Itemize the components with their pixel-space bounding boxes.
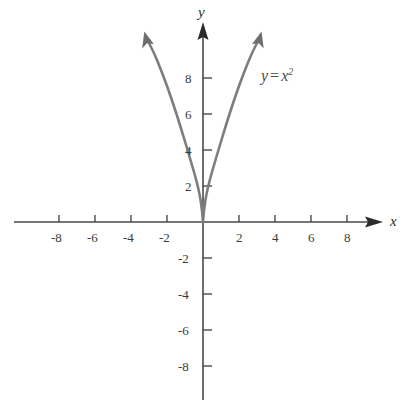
graph-figure: -8 -6 -4 -2 2 4 6 8 8 6 4 2 -2 -4 -6 -8 …	[0, 0, 411, 414]
x-tick-label-2: 2	[236, 231, 243, 244]
x-tick-label-4: 4	[272, 231, 279, 244]
x-tick-label--8: -8	[51, 231, 62, 244]
y-axis-name-label: y	[198, 5, 205, 20]
y-tick-label--8: -8	[178, 360, 189, 373]
x-tick-label-6: 6	[308, 231, 315, 244]
parabola-left-arrowhead	[142, 32, 154, 49]
y-tick-label-8: 8	[185, 72, 192, 85]
x-tick-label--4: -4	[123, 231, 134, 244]
y-tick-label--6: -6	[178, 324, 189, 337]
parabola-right-arrowhead	[252, 32, 264, 49]
y-tick-label--4: -4	[178, 288, 189, 301]
x-tick-label--2: -2	[159, 231, 170, 244]
y-tick-label--2: -2	[178, 252, 189, 265]
y-tick-label-2: 2	[185, 180, 192, 193]
x-tick-label--6: -6	[87, 231, 98, 244]
x-tick-label-8: 8	[344, 231, 351, 244]
x-axis-name-label: x	[390, 214, 397, 229]
y-tick-label-6: 6	[185, 108, 192, 121]
cartesian-plot-svg	[0, 0, 411, 414]
curve-equation-label: y=x2	[261, 68, 293, 84]
curve-label-equals: =	[268, 67, 281, 84]
curve-label-exponent: 2	[288, 66, 293, 77]
y-tick-label-4: 4	[185, 144, 192, 157]
